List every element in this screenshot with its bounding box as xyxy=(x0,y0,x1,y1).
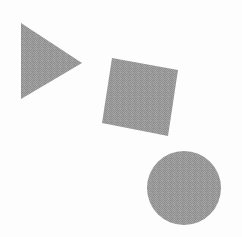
square-shape[interactable] xyxy=(102,58,178,136)
circle-shape[interactable] xyxy=(147,151,221,225)
shape-canvas-root: Triangle Square Circle Geometric shapes … xyxy=(0,0,242,237)
shape-square-group[interactable] xyxy=(102,58,178,136)
shapes-illustration xyxy=(0,0,242,237)
shape-circle-group[interactable] xyxy=(147,151,221,225)
